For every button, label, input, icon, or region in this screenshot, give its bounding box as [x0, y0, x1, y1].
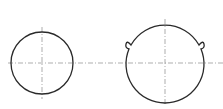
- technical-drawing: [0, 0, 223, 109]
